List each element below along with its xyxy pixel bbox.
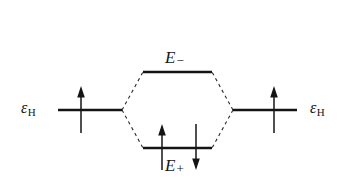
label-bonding: E+ xyxy=(165,157,184,175)
connector-left-to-antibonding xyxy=(122,72,143,110)
label-atomic-right-subscript: H xyxy=(316,106,324,118)
label-antibonding-subscript: − xyxy=(175,53,183,68)
mo-energy-level-diagram: εH εH E− E+ xyxy=(0,0,352,181)
label-atomic-left-subscript: H xyxy=(27,106,35,118)
diagram-canvas xyxy=(0,0,352,181)
label-bonding-symbol: E xyxy=(165,156,175,175)
label-antibonding: E− xyxy=(165,49,184,67)
label-atomic-right: εH xyxy=(310,100,325,118)
connector-right-to-bonding xyxy=(212,110,233,148)
energy-levels xyxy=(58,72,297,148)
connector-left-to-bonding xyxy=(122,110,143,148)
label-bonding-subscript: + xyxy=(175,161,183,176)
label-atomic-left: εH xyxy=(21,100,36,118)
correlation-lines xyxy=(122,72,233,148)
connector-right-to-antibonding xyxy=(212,72,233,110)
label-antibonding-symbol: E xyxy=(165,48,175,67)
